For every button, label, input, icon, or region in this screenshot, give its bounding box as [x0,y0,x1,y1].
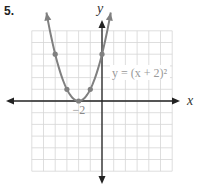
y-axis-up-arrow-icon [99,20,106,28]
x-axis-left-arrow-icon [6,98,14,105]
tick-label: −2 [73,103,86,117]
curve-arrow-icon [106,13,113,21]
data-point [64,87,69,92]
y-axis-down-arrow-icon [99,176,106,184]
data-point [53,52,58,57]
x-axis-label: x [186,93,194,108]
data-point [88,87,93,92]
curve-arrow-icon [44,13,51,21]
parabola-chart: y = (x + 2)²xy−2 [0,0,205,194]
x-axis-right-arrow-icon [172,98,180,105]
equation-label: y = (x + 2)² [112,66,168,80]
y-axis-label: y [95,1,104,16]
data-point [99,52,104,57]
